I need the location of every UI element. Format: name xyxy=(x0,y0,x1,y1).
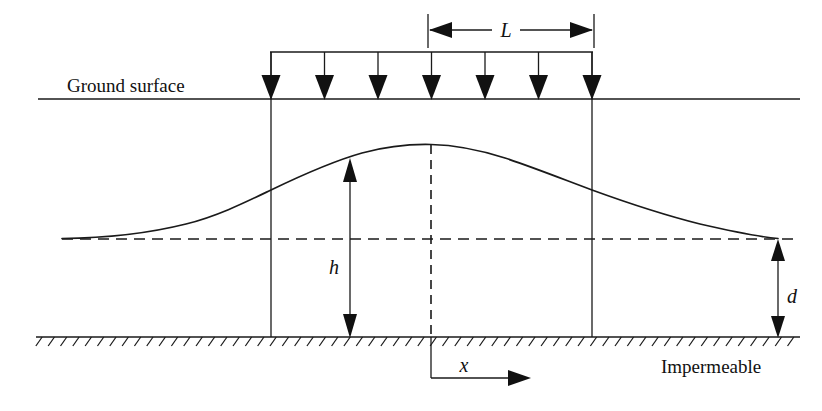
hatch-tick xyxy=(467,337,473,346)
hatch-tick xyxy=(147,337,153,346)
hatch-tick xyxy=(110,337,116,346)
load-arrow-head xyxy=(315,75,334,100)
figure-root: L h d x Ground surface Impermeable xyxy=(0,0,822,411)
hatch-ticks xyxy=(36,337,794,346)
hatch-tick xyxy=(369,337,375,346)
hatch-tick xyxy=(319,337,325,346)
hatch-tick xyxy=(258,337,264,346)
x-axis-arrowhead xyxy=(508,370,531,386)
hatch-tick xyxy=(516,337,522,346)
ground-surface-label: Ground surface xyxy=(67,75,185,96)
hatch-tick xyxy=(61,337,67,346)
hatch-tick xyxy=(134,337,140,346)
hatch-tick xyxy=(295,337,301,346)
hatch-tick xyxy=(751,337,757,346)
hatch-tick xyxy=(492,337,498,346)
hatch-tick xyxy=(245,337,251,346)
dimension-L-group: L xyxy=(428,14,594,48)
hatch-tick xyxy=(788,337,794,346)
hatch-tick xyxy=(221,337,227,346)
hatch-tick xyxy=(504,337,510,346)
hatch-tick xyxy=(590,337,596,346)
hatch-tick xyxy=(664,337,670,346)
dimension-L-label: L xyxy=(499,19,511,41)
hatch-tick xyxy=(332,337,338,346)
hatch-tick xyxy=(282,337,288,346)
hatch-tick xyxy=(184,337,190,346)
load-arrow-head xyxy=(422,75,441,100)
hatch-tick xyxy=(344,337,350,346)
hatch-tick xyxy=(553,337,559,346)
dimension-h-group: h xyxy=(329,158,357,338)
groundwater-mound-diagram: L h d x Ground surface Impermeable xyxy=(0,0,822,411)
load-arrow-head xyxy=(583,75,602,100)
hatch-tick xyxy=(615,337,621,346)
hatch-tick xyxy=(566,337,572,346)
hatch-tick xyxy=(443,337,449,346)
hatch-tick xyxy=(196,337,202,346)
hatch-tick xyxy=(529,337,535,346)
hatch-tick xyxy=(406,337,412,346)
hatch-tick xyxy=(36,337,42,346)
load-arrow-head xyxy=(529,75,548,100)
hatch-tick xyxy=(393,337,399,346)
impermeable-hatching-group xyxy=(36,337,800,346)
dimension-h-label: h xyxy=(329,256,339,278)
dimension-d-arrowhead-bottom xyxy=(771,316,785,338)
hatch-tick xyxy=(208,337,214,346)
hatch-tick xyxy=(356,337,362,346)
hatch-tick xyxy=(270,337,276,346)
dimension-h-arrowhead-top xyxy=(343,158,357,182)
hatch-tick xyxy=(233,337,239,346)
x-axis-label: x xyxy=(459,354,469,376)
load-arrow-head xyxy=(476,75,495,100)
hatch-tick xyxy=(714,337,720,346)
hatch-tick xyxy=(677,337,683,346)
hatch-tick xyxy=(159,337,165,346)
impermeable-label: Impermeable xyxy=(661,356,761,377)
hatch-tick xyxy=(701,337,707,346)
dimension-d-group: d xyxy=(771,239,798,338)
hatch-tick xyxy=(381,337,387,346)
hatch-tick xyxy=(775,337,781,346)
dimension-d-arrowhead-top xyxy=(771,239,785,261)
hatch-tick xyxy=(640,337,646,346)
hatch-tick xyxy=(48,337,54,346)
hatch-tick xyxy=(627,337,633,346)
hatch-tick xyxy=(479,337,485,346)
water-table-mound-curve xyxy=(62,144,778,238)
hatch-tick xyxy=(689,337,695,346)
hatch-tick xyxy=(85,337,91,346)
load-arrow-head xyxy=(369,75,388,100)
hatch-tick xyxy=(652,337,658,346)
recharge-load-arrows xyxy=(262,52,602,100)
hatch-tick xyxy=(763,337,769,346)
recharge-load-group xyxy=(262,52,602,100)
dimension-h-arrowhead-bottom xyxy=(343,314,357,338)
hatch-tick xyxy=(738,337,744,346)
hatch-tick xyxy=(307,337,313,346)
hatch-tick xyxy=(578,337,584,346)
hatch-tick xyxy=(603,337,609,346)
hatch-tick xyxy=(541,337,547,346)
hatch-tick xyxy=(122,337,128,346)
load-arrow-head xyxy=(262,75,281,100)
hatch-tick xyxy=(418,337,424,346)
dimension-L-arrowhead-right xyxy=(570,22,593,38)
hatch-tick xyxy=(455,337,461,346)
dimension-L-arrowhead-left xyxy=(429,22,452,38)
dimension-d-label: d xyxy=(787,285,798,307)
hatch-tick xyxy=(97,337,103,346)
hatch-tick xyxy=(73,337,79,346)
hatch-tick xyxy=(171,337,177,346)
hatch-tick xyxy=(726,337,732,346)
